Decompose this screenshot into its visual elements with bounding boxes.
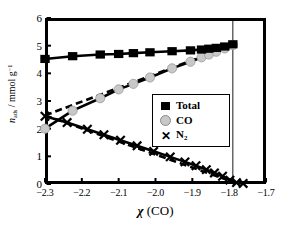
y-tick-label: 6: [28, 13, 42, 24]
y-axis-label: nads / mmol g−1: [6, 39, 18, 149]
y-tick-label: 2: [28, 123, 42, 134]
x-axis-tick-labels: −2.3−2.2−2.1−2.0−1.9−1.8−1.7: [0, 188, 286, 202]
legend-item-co: CO: [157, 113, 225, 128]
legend-item-n2: ✕ N2: [157, 128, 225, 143]
x-tick-label: −2.3: [25, 188, 65, 198]
x-tick-label: −2.1: [99, 188, 139, 198]
x-axis-label: χ (CO): [45, 203, 266, 219]
y-tick-label: 1: [28, 151, 42, 162]
x-cross-icon: ✕: [157, 130, 174, 142]
legend-item-total: Total: [157, 98, 225, 113]
chart-figure: 0123456 −2.3−2.2−2.1−2.0−1.9−1.8−1.7 nad…: [0, 0, 286, 226]
legend-label-co: CO: [174, 115, 193, 126]
x-tick-label: −1.7: [246, 188, 286, 198]
y-tick-label: 3: [28, 96, 42, 107]
x-tick-label: −2.2: [62, 188, 102, 198]
gray-circle-icon: [157, 115, 174, 126]
filled-square-icon: [157, 102, 174, 110]
legend-label-n2: N2: [174, 129, 187, 142]
legend-label-total: Total: [174, 100, 200, 111]
x-tick-label: −1.8: [209, 188, 249, 198]
y-tick-label: 4: [28, 68, 42, 79]
y-tick-label: 5: [28, 40, 42, 51]
x-tick-label: −1.9: [172, 188, 212, 198]
x-tick-label: −2.0: [136, 188, 176, 198]
chart-legend: Total CO ✕ N2: [152, 94, 230, 147]
